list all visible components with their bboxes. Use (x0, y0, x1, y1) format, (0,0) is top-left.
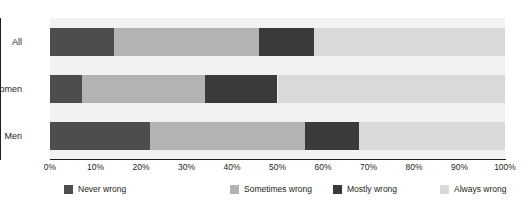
x-axis-line (50, 159, 506, 160)
category-label-men: Men (0, 122, 22, 150)
x-tick-label-10: 10% (76, 162, 116, 172)
x-tick-label-20: 20% (121, 162, 161, 172)
x-tick-label-60: 60% (303, 162, 343, 172)
bar-segment-all-sometimes-wrong (114, 28, 260, 56)
chart-legend: Never wrongSometimes wrongMostly wrongAl… (0, 182, 528, 196)
bar-row-all (50, 28, 505, 56)
bar-segment-men-mostly-wrong (305, 122, 360, 150)
x-tick-label-90: 90% (440, 162, 480, 172)
bar-segment-all-never-wrong (50, 28, 114, 56)
legend-label-always-wrong: Always wrong (454, 185, 506, 194)
bar-segment-women-never-wrong (50, 75, 82, 103)
x-tick-label-100: 100% (485, 162, 525, 172)
legend-item-mostly-wrong[interactable]: Mostly wrong (333, 182, 397, 196)
x-tick-label-70: 70% (349, 162, 389, 172)
bar-segment-all-always-wrong (314, 28, 505, 56)
legend-item-always-wrong[interactable]: Always wrong (440, 182, 506, 196)
x-tick-label-50: 50% (258, 162, 298, 172)
category-label-all: All (0, 28, 22, 56)
category-label-women: Women (0, 75, 22, 103)
bar-segment-men-always-wrong (359, 122, 505, 150)
bar-segment-men-sometimes-wrong (150, 122, 305, 150)
legend-item-sometimes-wrong[interactable]: Sometimes wrong (230, 182, 312, 196)
bar-row-men (50, 122, 505, 150)
legend-swatch-never-wrong (64, 185, 73, 194)
bar-segment-men-never-wrong (50, 122, 150, 150)
plot-area (50, 18, 505, 160)
legend-label-never-wrong: Never wrong (78, 185, 126, 194)
x-tick-label-40: 40% (212, 162, 252, 172)
x-tick-label-80: 80% (394, 162, 434, 172)
bar-row-women (50, 75, 505, 103)
x-tick-label-0: 0% (30, 162, 70, 172)
legend-item-never-wrong[interactable]: Never wrong (64, 182, 126, 196)
legend-swatch-mostly-wrong (333, 185, 342, 194)
legend-label-sometimes-wrong: Sometimes wrong (244, 185, 312, 194)
bar-segment-all-mostly-wrong (259, 28, 314, 56)
legend-label-mostly-wrong: Mostly wrong (347, 185, 397, 194)
bar-segment-women-sometimes-wrong (82, 75, 205, 103)
bar-segment-women-always-wrong (278, 75, 506, 103)
stacked-bar-chart: All Women Men 0%10%20%30%40%50%60%70%80%… (0, 0, 528, 201)
bar-segment-women-mostly-wrong (205, 75, 278, 103)
legend-swatch-always-wrong (440, 185, 449, 194)
x-tick-label-30: 30% (167, 162, 207, 172)
legend-swatch-sometimes-wrong (230, 185, 239, 194)
